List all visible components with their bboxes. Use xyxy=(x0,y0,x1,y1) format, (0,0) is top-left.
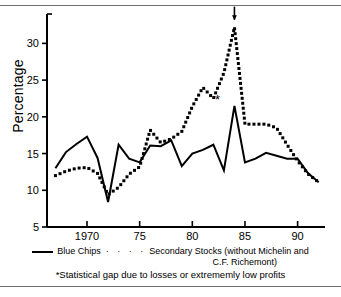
legend-label-secondary-stocks: Secondary Stocks (without Michelin and xyxy=(149,246,309,257)
series-line-secondary-stocks xyxy=(54,27,318,195)
x-tick-label: 80 xyxy=(186,230,198,242)
chart-footnote: *Statistical gap due to losses or extrem… xyxy=(0,269,341,280)
chart-figure: Percentage 51015202530197075808590* Blue… xyxy=(0,0,341,297)
x-tick-label: 1970 xyxy=(75,230,99,242)
x-tick-label: 85 xyxy=(239,230,251,242)
chart-legend: Blue Chips · · · · Secondary Stocks (wit… xyxy=(0,246,341,280)
statistical-gap-asterisk: * xyxy=(215,92,220,107)
plot-area: 51015202530197075808590* xyxy=(0,0,341,250)
x-tick-label: 75 xyxy=(134,230,146,242)
y-tick-label: 20 xyxy=(27,111,39,123)
bottom-divider-rule xyxy=(0,286,341,287)
legend-label-secondary-stocks-cont: C.F. Richemont) xyxy=(0,257,341,268)
peak-arrow-icon xyxy=(232,7,237,20)
y-tick-label: 10 xyxy=(27,184,39,196)
legend-swatch-secondary-stocks: · · · · xyxy=(106,246,147,257)
x-tick-label: 90 xyxy=(291,230,303,242)
series-line-blue-chips xyxy=(55,106,318,202)
legend-label-blue-chips: Blue Chips xyxy=(57,246,101,257)
y-tick-label: 25 xyxy=(27,74,39,86)
y-tick-label: 30 xyxy=(27,37,39,49)
y-tick-label: 5 xyxy=(33,221,39,233)
legend-swatch-blue-chips xyxy=(32,251,53,253)
y-tick-label: 15 xyxy=(27,148,39,160)
